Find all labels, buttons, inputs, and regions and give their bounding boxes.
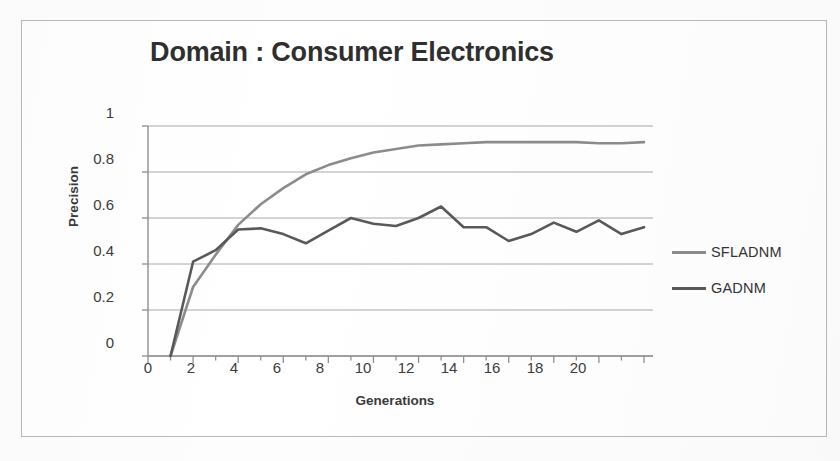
x-tick-label: 18 xyxy=(520,359,550,376)
x-axis-title: Generations xyxy=(140,393,650,408)
x-tick-label: 12 xyxy=(391,359,421,376)
y-tick-label: 0 xyxy=(74,334,114,351)
x-tick-label: 10 xyxy=(348,359,378,376)
legend-label-gadnm: GADNM xyxy=(711,280,766,296)
legend-swatch-gadnm xyxy=(672,287,706,290)
y-tick-label: 0.6 xyxy=(74,196,114,213)
legend-item-sfladnm[interactable]: SFLADNM xyxy=(672,234,822,270)
plot-area-wrapper: Precision Generations 0 0.2 0.4 0.6 0.8 … xyxy=(22,21,828,438)
x-tick-label: 20 xyxy=(563,359,593,376)
y-tick-label: 1 xyxy=(74,104,114,121)
series-line-sfladnm xyxy=(171,142,644,356)
x-tick-label: 14 xyxy=(434,359,464,376)
y-tick-label: 0.4 xyxy=(74,242,114,259)
x-tick-label: 8 xyxy=(305,359,335,376)
legend: SFLADNM GADNM xyxy=(672,234,822,306)
legend-item-gadnm[interactable]: GADNM xyxy=(672,270,822,306)
x-tick-label: 16 xyxy=(477,359,507,376)
legend-label-sfladnm: SFLADNM xyxy=(711,244,782,260)
x-tick-label: 6 xyxy=(262,359,292,376)
data-series-group xyxy=(171,142,644,356)
y-tick-label: 0.2 xyxy=(74,288,114,305)
axis-ticks xyxy=(142,126,644,363)
legend-swatch-sfladnm xyxy=(672,251,706,254)
chart-frame: Domain : Consumer Electronics Precision … xyxy=(21,20,827,437)
x-tick-label: 0 xyxy=(133,359,163,376)
y-tick-label: 0.8 xyxy=(74,150,114,167)
x-tick-label: 2 xyxy=(176,359,206,376)
series-line-gadnm xyxy=(171,207,644,357)
x-tick-label: 4 xyxy=(219,359,249,376)
scanned-figure-page: Domain : Consumer Electronics Precision … xyxy=(0,0,840,461)
